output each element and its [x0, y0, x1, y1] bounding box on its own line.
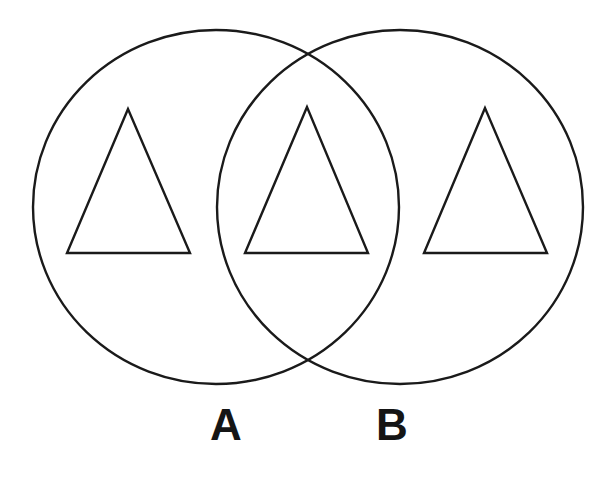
triangle-intersection — [245, 107, 368, 253]
venn-diagram — [0, 0, 600, 477]
set-a-label: A — [196, 402, 256, 448]
triangle-a-only — [67, 109, 190, 253]
triangle-b-only — [424, 108, 547, 253]
set-b-label: B — [362, 402, 422, 448]
